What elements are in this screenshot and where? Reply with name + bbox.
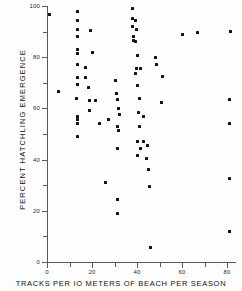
data-point <box>131 7 134 10</box>
data-point <box>76 83 79 86</box>
data-point <box>104 181 107 184</box>
data-point <box>136 54 139 57</box>
data-point <box>139 67 142 70</box>
x-minor-tick-50 <box>160 263 161 267</box>
data-point <box>88 109 91 112</box>
data-point <box>84 76 87 79</box>
x-tick-0 <box>47 263 48 268</box>
y-tick-label-100: 100 <box>16 3 40 9</box>
data-point <box>117 129 120 132</box>
data-point <box>116 212 119 215</box>
y-minor-tick-50 <box>43 134 47 135</box>
data-point <box>149 246 152 249</box>
data-point <box>136 140 139 143</box>
data-point <box>76 115 79 118</box>
data-point <box>146 144 149 147</box>
data-point <box>76 135 79 138</box>
data-point <box>76 10 79 13</box>
y-axis-line <box>47 6 48 263</box>
data-point <box>117 107 120 110</box>
data-point <box>76 118 79 121</box>
y-minor-tick-70 <box>43 83 47 84</box>
data-point <box>115 92 118 95</box>
y-tick-label-0: 0 <box>16 259 40 265</box>
data-point <box>138 97 141 100</box>
y-axis-title: PERCENT HATCHLING EMERGENCE <box>18 30 27 230</box>
data-point <box>76 76 79 79</box>
y-tick-60 <box>42 108 47 109</box>
data-point <box>155 63 158 66</box>
x-tick-label-0: 0 <box>37 269 57 275</box>
data-point <box>91 51 94 54</box>
x-minor-tick-10 <box>70 263 71 267</box>
data-point <box>134 40 137 43</box>
data-point <box>181 33 184 36</box>
x-minor-tick-30 <box>115 263 116 267</box>
data-point <box>94 99 97 102</box>
data-point <box>114 79 117 82</box>
x-tick-label-80: 80 <box>217 269 237 275</box>
y-tick-100 <box>42 6 47 7</box>
data-point <box>76 63 79 66</box>
data-point <box>134 19 137 22</box>
data-point <box>135 67 138 70</box>
data-point <box>76 19 79 22</box>
data-point <box>136 154 139 157</box>
x-axis-title: TRACKS PER IO METERS OF BEACH PER SEASON <box>0 279 242 288</box>
data-point <box>228 177 231 180</box>
data-point <box>116 147 119 150</box>
scatter-plot-figure: 020406080100 020406080 PERCENT HATCHLING… <box>0 0 242 291</box>
data-point <box>98 122 101 125</box>
y-tick-80 <box>42 57 47 58</box>
data-point <box>142 140 145 143</box>
data-point <box>139 147 142 150</box>
data-point <box>137 111 140 114</box>
x-tick-label-60: 60 <box>172 269 192 275</box>
data-point <box>229 30 232 33</box>
y-tick-40 <box>42 160 47 161</box>
data-point <box>88 99 91 102</box>
data-point <box>76 122 79 125</box>
x-tick-label-40: 40 <box>127 269 147 275</box>
data-point <box>76 28 79 31</box>
data-point <box>138 125 141 128</box>
data-point <box>142 115 145 118</box>
data-point <box>116 98 119 101</box>
data-point <box>161 75 164 78</box>
data-point <box>228 98 231 101</box>
data-point <box>84 66 87 69</box>
data-point <box>148 185 151 188</box>
data-point <box>116 125 119 128</box>
data-point <box>89 29 92 32</box>
data-point <box>76 52 79 55</box>
data-point <box>132 35 135 38</box>
x-tick-20 <box>92 263 93 268</box>
data-point <box>118 113 121 116</box>
data-point <box>145 157 148 160</box>
y-minor-tick-90 <box>43 32 47 33</box>
data-point <box>57 90 60 93</box>
x-tick-40 <box>137 263 138 268</box>
x-tick-80 <box>227 263 228 268</box>
data-point <box>107 118 110 121</box>
x-minor-tick-70 <box>205 263 206 267</box>
y-minor-tick-10 <box>43 236 47 237</box>
data-point <box>228 122 231 125</box>
data-point <box>134 72 137 75</box>
data-point <box>160 101 163 104</box>
y-minor-tick-30 <box>43 185 47 186</box>
data-point <box>228 230 231 233</box>
data-point <box>48 13 51 16</box>
data-point <box>76 35 79 38</box>
x-tick-60 <box>182 263 183 268</box>
data-point <box>147 168 150 171</box>
data-point <box>196 31 199 34</box>
data-point <box>135 28 138 31</box>
data-point <box>75 97 78 100</box>
x-axis-line <box>47 262 236 263</box>
data-point <box>76 48 79 51</box>
x-tick-label-20: 20 <box>82 269 102 275</box>
data-point <box>87 86 90 89</box>
data-point <box>116 198 119 201</box>
y-tick-20 <box>42 211 47 212</box>
